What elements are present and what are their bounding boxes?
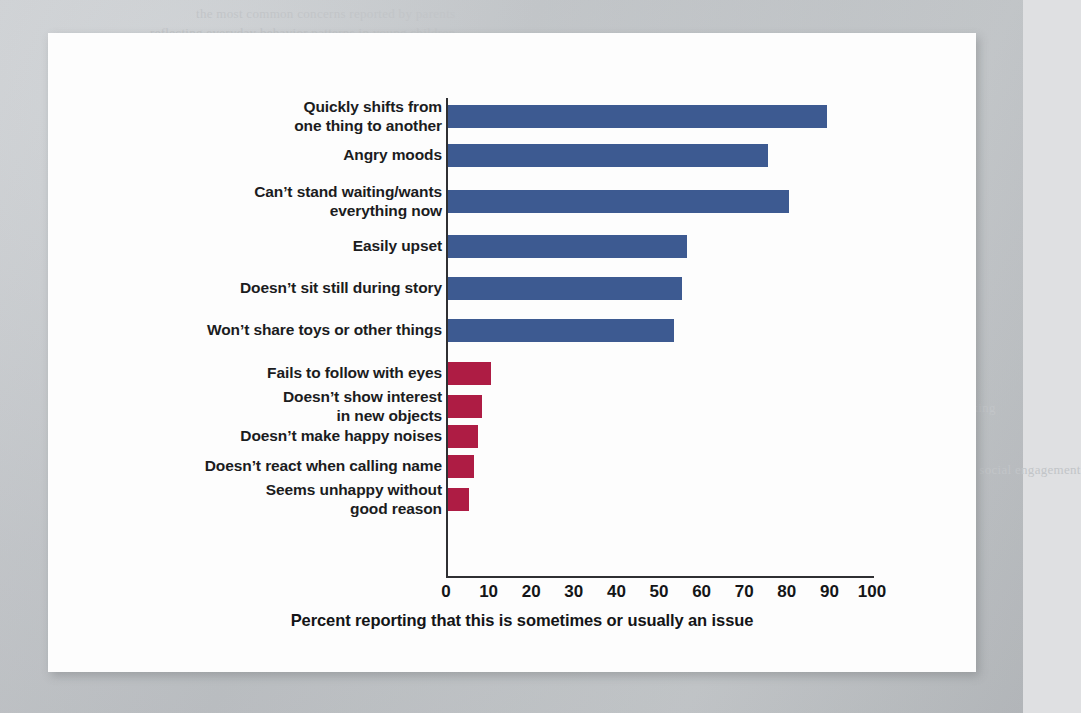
bar-track: [448, 277, 682, 300]
bar-category-label: Fails to follow with eyes: [102, 364, 442, 383]
bar-row[interactable]: Doesn’t sit still during story: [48, 277, 976, 300]
bar-track: [448, 319, 674, 342]
bar-category-label: Doesn’t make happy noises: [102, 427, 442, 446]
ghost-line: the most common concerns reported by par…: [196, 6, 455, 22]
x-tick-label: 50: [650, 582, 669, 602]
bar-track: [448, 395, 482, 418]
bar-track: [448, 488, 469, 511]
bar-category-label: Won’t share toys or other things: [102, 321, 442, 340]
x-tick-label: 0: [441, 582, 450, 602]
x-axis-title: Percent reporting that this is sometimes…: [48, 611, 976, 630]
bar-category-label: Doesn’t react when calling name: [102, 457, 442, 476]
bar-chart-plot-area: Quickly shifts from one thing to another…: [48, 33, 976, 672]
x-tick-label: 90: [820, 582, 839, 602]
x-tick-label: 30: [564, 582, 583, 602]
bar[interactable]: [448, 319, 674, 342]
bar-row[interactable]: Seems unhappy without good reason: [48, 488, 976, 511]
bar-category-label: Angry moods: [102, 146, 442, 165]
bar[interactable]: [448, 425, 478, 448]
chart-card: Quickly shifts from one thing to another…: [48, 33, 976, 672]
bar-category-label: Seems unhappy without good reason: [102, 481, 442, 518]
bar-category-label: Easily upset: [102, 237, 442, 256]
bar[interactable]: [448, 105, 827, 128]
bar-track: [448, 455, 474, 478]
bar-track: [448, 105, 827, 128]
bar[interactable]: [448, 277, 682, 300]
x-axis-line: [446, 576, 874, 578]
bar-row[interactable]: Doesn’t show interest in new objects: [48, 395, 976, 418]
x-tick-label: 60: [692, 582, 711, 602]
x-tick-label: 40: [607, 582, 626, 602]
bar-row[interactable]: Doesn’t react when calling name: [48, 455, 976, 478]
bar-track: [448, 190, 789, 213]
bar-category-label: Can’t stand waiting/wants everything now: [102, 183, 442, 220]
bar-row[interactable]: Won’t share toys or other things: [48, 319, 976, 342]
bar[interactable]: [448, 488, 469, 511]
bar[interactable]: [448, 235, 687, 258]
bar-row[interactable]: Doesn’t make happy noises: [48, 425, 976, 448]
bar-track: [448, 362, 491, 385]
bar-track: [448, 425, 478, 448]
bar[interactable]: [448, 190, 789, 213]
x-tick-label: 20: [522, 582, 541, 602]
bar-category-label: Quickly shifts from one thing to another: [102, 98, 442, 135]
bar[interactable]: [448, 455, 474, 478]
x-tick-label: 100: [858, 582, 886, 602]
y-axis-line: [446, 98, 448, 578]
x-tick-label: 70: [735, 582, 754, 602]
bar-category-label: Doesn’t show interest in new objects: [102, 388, 442, 425]
x-tick-label: 80: [777, 582, 796, 602]
bar[interactable]: [448, 144, 768, 167]
bar-track: [448, 144, 768, 167]
bar-row[interactable]: Quickly shifts from one thing to another: [48, 105, 976, 128]
x-tick-label: 10: [479, 582, 498, 602]
bar-row[interactable]: Can’t stand waiting/wants everything now: [48, 190, 976, 213]
bar-row[interactable]: Fails to follow with eyes: [48, 362, 976, 385]
bar[interactable]: [448, 362, 491, 385]
x-axis-tick-labels: 0102030405060708090100: [446, 582, 874, 604]
bar-row[interactable]: Easily upset: [48, 235, 976, 258]
bar-row[interactable]: Angry moods: [48, 144, 976, 167]
bar[interactable]: [448, 395, 482, 418]
bar-track: [448, 235, 687, 258]
bar-category-label: Doesn’t sit still during story: [102, 279, 442, 298]
